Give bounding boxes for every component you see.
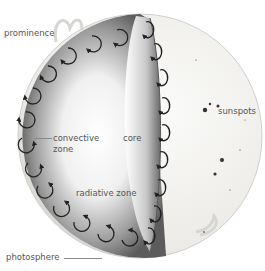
convective-leader-line (34, 138, 52, 139)
label-convective-zone-line1: convective (53, 133, 99, 143)
label-radiative-zone: radiative zone (76, 188, 137, 198)
label-photosphere: photosphere (6, 252, 60, 262)
label-core: core (123, 133, 141, 143)
label-prominence: prominence (4, 28, 54, 38)
label-convective-zone-line2: zone (53, 144, 73, 154)
sun-structure-diagram: prominence sunspots convective zone core… (0, 0, 265, 271)
photosphere-leader-line (64, 258, 102, 259)
label-sunspots: sunspots (218, 106, 256, 116)
